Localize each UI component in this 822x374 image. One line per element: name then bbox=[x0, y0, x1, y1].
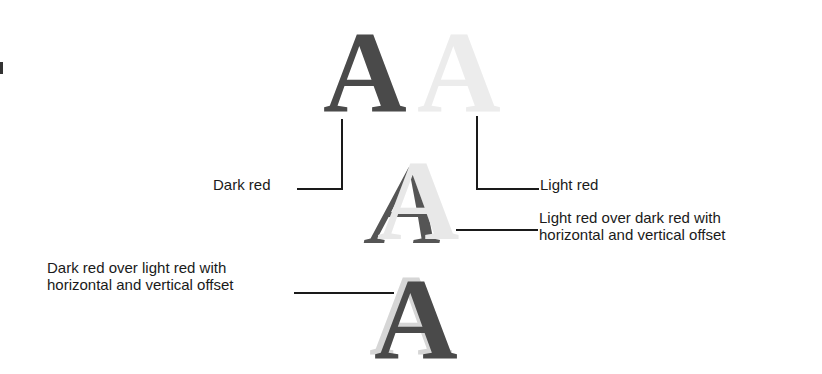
glyph-light-red: A bbox=[417, 14, 501, 130]
label-dark-red: Dark red bbox=[213, 176, 271, 193]
glyph-dark-red: A bbox=[323, 14, 407, 130]
label-dark-over-light-line2: horizontal and vertical offset bbox=[47, 276, 234, 293]
leader-dark-red-horizontal bbox=[297, 188, 343, 190]
label-light-over-dark-line1: Light red over dark red with bbox=[539, 209, 721, 226]
leader-light-red-vertical bbox=[476, 116, 478, 190]
leader-dark-red-vertical bbox=[341, 119, 343, 190]
label-light-over-dark-line2: horizontal and vertical offset bbox=[539, 226, 726, 243]
leader-light-over-dark bbox=[456, 229, 538, 231]
leader-dark-over-light bbox=[294, 292, 394, 294]
glyph-light-red-offset-over: A bbox=[377, 144, 459, 258]
label-light-red: Light red bbox=[540, 176, 598, 193]
leader-light-red-horizontal bbox=[476, 188, 539, 190]
label-dark-over-light-line1: Dark red over light red with bbox=[47, 259, 226, 276]
glyph-dark-red-offset-over: A bbox=[374, 261, 458, 374]
edge-artifact bbox=[0, 62, 3, 74]
